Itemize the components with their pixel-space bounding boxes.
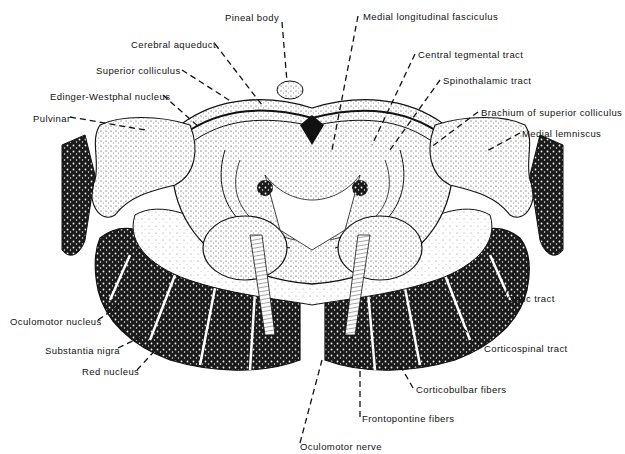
- label-medial-lemniscus: Medial lemniscus: [522, 128, 601, 139]
- tectum-tegmentum: [172, 100, 453, 284]
- midbrain-cross-section-figure: Pineal body Cerebral aqueduct Superior c…: [0, 0, 625, 454]
- label-red-nucleus: Red nucleus: [82, 366, 139, 377]
- label-cerebral-aqueduct: Cerebral aqueduct: [131, 39, 216, 50]
- midbrain-illustration: [0, 0, 625, 454]
- label-substantia-nigra: Substantia nigra: [45, 345, 120, 356]
- label-corticospinal-tract: Corticospinal tract: [484, 343, 568, 354]
- label-spinothalamic-tract: Spinothalamic tract: [443, 75, 531, 86]
- label-central-tegmental-tract: Central tegmental tract: [418, 49, 523, 60]
- pineal-body-shape: [277, 81, 303, 99]
- label-oculomotor-nerve: Oculomotor nerve: [300, 441, 382, 452]
- label-medial-longitudinal-fasciculus: Medial longitudinal fasciculus: [363, 11, 498, 22]
- label-corticobulbar-fibers: Corticobulbar fibers: [416, 384, 506, 395]
- label-pulvinar: Pulvinar: [33, 113, 71, 124]
- label-edinger-westphal-nucleus: Edinger-Westphal nucleus: [50, 91, 170, 102]
- label-superior-colliculus: Superior colliculus: [96, 65, 181, 76]
- label-brachium-of-superior-colliculus: Brachium of superior colliculus: [481, 107, 622, 118]
- label-frontopontine-fibers: Frontopontine fibers: [362, 413, 455, 424]
- label-pineal-body: Pineal body: [225, 12, 279, 23]
- label-optic-tract: Optic tract: [507, 293, 555, 304]
- label-oculomotor-nucleus: Oculomotor nucleus: [10, 316, 102, 327]
